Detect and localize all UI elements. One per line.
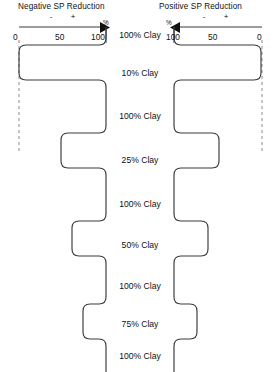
left-tick-100: 100 <box>91 32 105 42</box>
bed-label-3: 100% Clay <box>105 111 175 121</box>
right-sp-log-curve <box>174 27 261 372</box>
left-sp-log-curve <box>19 27 106 372</box>
left-minus-sign: - <box>40 12 62 21</box>
right-tick-50: 50 <box>208 32 217 42</box>
right-axis-title: Positive SP Reduction <box>159 2 242 11</box>
right-minus-sign: - <box>193 12 215 21</box>
right-polarity-signs: -+ <box>193 12 237 21</box>
bed-label-7: 100% Clay <box>105 281 175 291</box>
left-plus-sign: + <box>62 12 84 21</box>
bed-label-8: 75% Clay <box>105 319 175 329</box>
right-plus-sign: + <box>215 12 237 21</box>
bed-label-1: 100% Clay <box>105 30 175 40</box>
left-axis-title: Negative SP Reduction <box>18 2 105 11</box>
left-tick-50: 50 <box>55 32 64 42</box>
sp-log-canvas <box>0 0 280 372</box>
left-polarity-signs: -+ <box>40 12 84 21</box>
bed-label-5: 100% Clay <box>105 199 175 209</box>
right-tick-0: 0 <box>257 32 262 42</box>
left-percent-symbol: % <box>103 19 109 26</box>
right-percent-symbol: % <box>166 19 172 26</box>
bed-label-2: 10% Clay <box>105 68 175 78</box>
sp-reduction-figure: Negative SP Reduction -+ % 0 50 100 Posi… <box>0 0 280 372</box>
bed-label-4: 25% Clay <box>105 155 175 165</box>
left-tick-0: 0 <box>13 32 18 42</box>
bed-label-9: 100% Clay <box>105 351 175 361</box>
bed-label-6: 50% Clay <box>105 240 175 250</box>
